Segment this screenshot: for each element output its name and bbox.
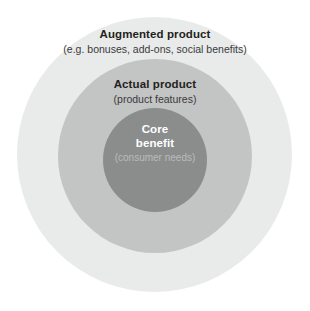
actual-product-title: Actual product [0, 78, 310, 92]
augmented-product-subtitle: (e.g. bonuses, add-ons, social benefits) [0, 43, 310, 55]
core-benefit-title-line1: Core [0, 122, 310, 136]
augmented-product-title: Augmented product [0, 28, 310, 42]
core-benefit-label: Core benefit (consumer needs) [0, 122, 310, 164]
core-benefit-title-line2: benefit [0, 136, 310, 150]
product-levels-diagram: Augmented product (e.g. bonuses, add-ons… [0, 0, 310, 311]
actual-product-label: Actual product (product features) [0, 78, 310, 105]
core-benefit-title: Core benefit [0, 122, 310, 150]
actual-product-subtitle: (product features) [0, 93, 310, 105]
core-benefit-subtitle: (consumer needs) [0, 152, 310, 164]
augmented-product-label: Augmented product (e.g. bonuses, add-ons… [0, 28, 310, 55]
